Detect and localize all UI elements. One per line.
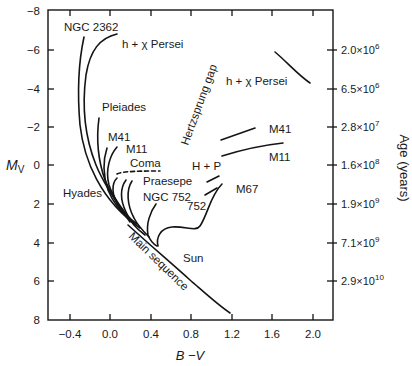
label-sun: Sun: [183, 252, 203, 264]
age-axis-label: Age (years): [397, 134, 412, 201]
label-main-sequence: Main sequence: [127, 230, 191, 293]
praesepe-curve: [122, 180, 146, 235]
age-tick: 6.5×106: [341, 81, 380, 95]
top-ticks: [70, 10, 313, 16]
label-ngc2362: NGC 2362: [64, 21, 118, 33]
y-tick-labels: −8 −6 −4 −2 0 2 4 6 8: [27, 5, 41, 326]
x-axis-label: B −V: [176, 348, 206, 363]
label-752: 752: [187, 200, 206, 212]
y-tick: −6: [27, 44, 40, 56]
right-ticks: [327, 50, 337, 281]
m41-giants-curve: [221, 128, 255, 140]
y-tick: −8: [27, 5, 40, 17]
age-tick: 1.6×108: [341, 157, 380, 171]
label-m41-giants: M41: [269, 123, 291, 135]
age-tick: 2.9×1010: [341, 273, 384, 287]
y-tick: −4: [27, 83, 41, 95]
x-tick-labels: −0.4 0.0 0.4 0.8 1.2 1.6 2.0: [59, 328, 321, 340]
x-tick: 1.2: [224, 328, 240, 340]
label-coma: Coma: [130, 157, 161, 169]
left-ticks: [48, 50, 54, 281]
ngc752-curve: [147, 204, 157, 246]
curve-labels: NGC 2362 h + χ Persei Pleiades M41 M11 C…: [63, 21, 291, 293]
x-tick: 0.8: [183, 328, 199, 340]
hr-diagram-chart: −8 −6 −4 −2 0 2 4 6 8 −0.4 0.0 0.4 0.8 1…: [0, 0, 412, 366]
age-tick: 1.9×109: [341, 196, 380, 210]
age-tick: 2.8×107: [341, 119, 380, 133]
label-praesepe: Praesepe: [143, 175, 192, 187]
age-tick: 7.1×109: [341, 235, 380, 249]
hp-giants-curve: [207, 176, 219, 182]
y-axis-label: MV: [6, 157, 25, 175]
x-tick: 0.4: [143, 328, 160, 340]
label-m67: M67: [236, 183, 258, 195]
y-tick: 8: [34, 314, 40, 326]
label-hchi-persei-giants: h + χ Persei: [226, 75, 287, 87]
label-m11: M11: [126, 143, 148, 155]
y-tick: 4: [34, 237, 41, 249]
y-tick: 0: [34, 159, 40, 171]
x-tick: 1.6: [264, 328, 280, 340]
label-hchi-persei: h + χ Persei: [122, 38, 183, 50]
label-hyades: Hyades: [63, 187, 102, 199]
label-hertzsprung-gap: Hertzsprung gap: [179, 63, 219, 147]
age-tick: 2.0×106: [341, 42, 380, 56]
age-tick-labels: 2.0×106 6.5×106 2.8×107 1.6×108 1.9×109 …: [341, 42, 384, 287]
bottom-ticks: [70, 314, 313, 320]
x-tick: 0.0: [102, 328, 118, 340]
label-m41: M41: [108, 131, 130, 143]
label-pleiades: Pleiades: [102, 101, 146, 113]
y-tick: 2: [34, 198, 40, 210]
x-tick: 2.0: [305, 328, 321, 340]
y-tick: −2: [27, 121, 40, 133]
label-hp: H + P: [192, 160, 221, 172]
coma-curve: [117, 171, 160, 174]
label-ngc752: NGC 752: [143, 191, 191, 203]
y-tick: 6: [34, 275, 40, 287]
x-tick: −0.4: [59, 328, 82, 340]
label-m11-giants: M11: [269, 151, 291, 163]
